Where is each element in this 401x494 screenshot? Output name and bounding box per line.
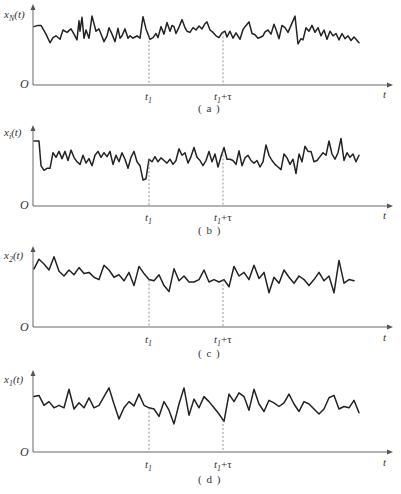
panel-c-t1-label: t1 (145, 334, 152, 348)
panel-a-x-axis-arrow-icon (387, 83, 393, 88)
panel-b-x-axis-arrow-icon (387, 204, 393, 209)
random-process-figure: xN(t) O t1 t1+τ t ( a ) xi(t) O t1 t1+τ … (0, 0, 401, 494)
panel-d-ylabel: x1(t) (4, 374, 23, 388)
panel-a-ylabel: xN(t) (4, 9, 25, 23)
panel-c-waveform (34, 257, 354, 293)
panel-d-xlabel: t (383, 457, 386, 468)
panel-b-t1-label: t1 (145, 212, 152, 226)
panel-d-x-axis-arrow-icon (387, 450, 393, 455)
panel-a-xlabel: t (383, 89, 386, 100)
panel-a-origin: O (20, 78, 29, 90)
panel-b-waveform (34, 138, 359, 180)
panel-a-waveform (34, 16, 359, 44)
panel-b-origin: O (20, 199, 29, 211)
panel-c-caption: ( c ) (198, 348, 221, 359)
panel-c-ylabel: x2(t) (4, 250, 23, 264)
panel-a-caption: ( a ) (198, 103, 221, 114)
figure-canvas (0, 0, 401, 494)
panel-d-y-axis-arrow-icon (31, 370, 36, 376)
panel-a-y-axis-arrow-icon (31, 4, 36, 10)
panel-d-waveform (34, 388, 359, 424)
panel-c-y-axis-arrow-icon (31, 246, 36, 252)
panel-b-ylabel: xi(t) (4, 127, 22, 141)
panel-d-t1tau-label: t1+τ (214, 459, 232, 473)
panel-b-caption: ( b ) (198, 225, 221, 236)
panel-c-xlabel: t (383, 332, 386, 343)
panel-d-caption: ( d ) (198, 474, 221, 485)
panel-c-x-axis-arrow-icon (387, 325, 393, 330)
panel-d-t1-label: t1 (145, 459, 152, 473)
panel-c-origin: O (20, 321, 29, 333)
panel-d-origin: O (20, 446, 29, 458)
panel-b-y-axis-arrow-icon (31, 125, 36, 131)
panel-b-xlabel: t (383, 210, 386, 221)
panel-a-t1-label: t1 (145, 91, 152, 105)
